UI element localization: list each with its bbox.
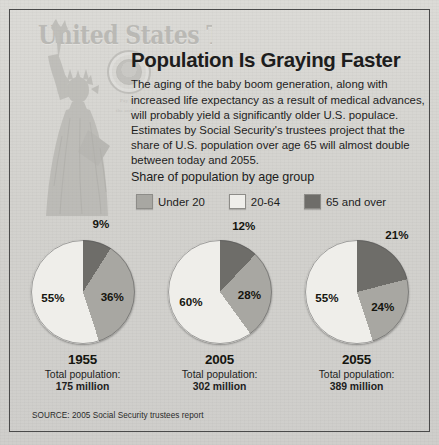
chart-year-label: 2005 (151, 352, 288, 367)
slice-label-20-64: 55% (41, 290, 64, 303)
pie-chart-1955: 36%55%9%1955Total population:175 million (14, 228, 151, 398)
slice-label-20-64: 55% (315, 290, 338, 303)
legend-label-0: Under 20 (158, 196, 205, 208)
slice-label-65-and-over: 12% (232, 218, 255, 231)
total-population-value: 302 million (193, 381, 247, 392)
legend-swatch-2 (304, 194, 321, 209)
chart-total-population: Total population:302 million (151, 369, 288, 394)
pie-wrapper: 24%55%21% (305, 240, 409, 344)
total-population-value: 389 million (330, 381, 384, 392)
legend: Under 2020-6465 and over (136, 194, 386, 209)
slice-label-under-20: 36% (101, 289, 124, 302)
legend-label-1: 20-64 (251, 196, 280, 208)
pie-chart-group: 36%55%9%1955Total population:175 million… (14, 228, 425, 398)
legend-title: Share of population by age group (131, 170, 314, 184)
legend-swatch-1 (229, 194, 246, 209)
total-population-value: 175 million (56, 381, 110, 392)
total-population-label: Total population: (151, 369, 288, 381)
slice-label-20-64: 60% (179, 295, 202, 308)
slice-label-65-and-over: 9% (93, 216, 110, 229)
deck-paragraph: The aging of the baby boom generation, a… (131, 77, 427, 168)
slice-label-under-20: 24% (371, 300, 394, 313)
legend-label-2: 65 and over (326, 196, 386, 208)
page-title: Population Is Graying Faster (131, 49, 423, 71)
total-population-label: Total population: (14, 369, 151, 381)
source-note: SOURCE: 2005 Social Security trustees re… (32, 411, 203, 420)
chart-year-label: 2055 (288, 352, 425, 367)
pie-chart-2055: 24%55%21%2055Total population:389 millio… (288, 228, 425, 398)
chart-year-label: 1955 (14, 352, 151, 367)
legend-item-2: 65 and over (304, 194, 386, 209)
pie-chart-2005: 28%60%12%2005Total population:302 millio… (151, 228, 288, 398)
total-population-label: Total population: (288, 369, 425, 381)
chart-total-population: Total population:389 million (288, 369, 425, 394)
legend-item-0: Under 20 (136, 194, 205, 209)
chart-total-population: Total population:175 million (14, 369, 151, 394)
infographic-page: United States Treasury Pay to the order (0, 0, 439, 445)
legend-swatch-0 (136, 194, 153, 209)
pie-wrapper: 36%55%9% (31, 240, 135, 344)
pie-wrapper: 28%60%12% (168, 240, 272, 344)
slice-label-65-and-over: 21% (385, 227, 408, 240)
slice-label-under-20: 28% (238, 287, 261, 300)
legend-item-1: 20-64 (229, 194, 280, 209)
